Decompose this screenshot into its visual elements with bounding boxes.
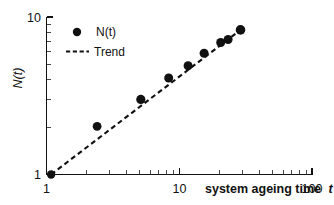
chart-container: 1 10 1 10 100 N(t) system ageing time t bbox=[0, 0, 334, 205]
data-point bbox=[200, 49, 209, 58]
data-point bbox=[47, 170, 55, 178]
loglog-scatter-chart: 1 10 1 10 100 N(t) system ageing time t bbox=[0, 0, 334, 205]
data-point bbox=[164, 74, 173, 83]
data-point bbox=[93, 122, 102, 131]
y-axis-title: N(t) bbox=[11, 68, 25, 89]
legend-label-trend: Trend bbox=[94, 45, 125, 59]
data-point bbox=[136, 95, 145, 104]
data-point bbox=[236, 25, 246, 35]
legend-label-series: N(t) bbox=[96, 25, 116, 39]
y-tick-label-10: 10 bbox=[27, 11, 41, 25]
data-point bbox=[224, 35, 233, 44]
x-axis-title: system ageing time t bbox=[205, 182, 334, 196]
x-tick-label-1: 1 bbox=[43, 182, 50, 196]
legend-marker-scatter-icon bbox=[73, 28, 81, 36]
y-tick-label-1: 1 bbox=[34, 168, 41, 182]
x-axis-title-text: system ageing time bbox=[205, 182, 321, 196]
data-point bbox=[184, 61, 193, 70]
x-tick-label-10: 10 bbox=[173, 182, 187, 196]
